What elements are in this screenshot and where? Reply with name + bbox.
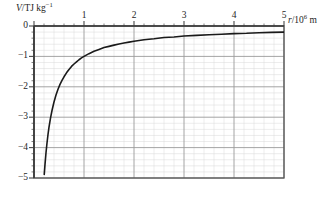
- y-tick-label: −4: [10, 143, 28, 153]
- y-tick-label: −1: [10, 51, 28, 61]
- y-tick-label: −3: [10, 112, 28, 122]
- y-tick-label: 0: [10, 21, 28, 31]
- x-axis-unit-text: m: [310, 15, 317, 25]
- y-tick-label: −2: [10, 82, 28, 92]
- y-tick-label: −5: [10, 173, 28, 183]
- x-tick-label: 2: [126, 11, 142, 21]
- x-tick-label: 1: [76, 11, 92, 21]
- x-tick-label: 4: [226, 11, 242, 21]
- x-tick-label: 5: [276, 11, 292, 21]
- x-tick-label: 3: [176, 11, 192, 21]
- x-axis-label: r/106 m: [288, 16, 317, 26]
- gravitational-potential-chart: V/TJ kg−1 r/106 m 12345 0−1−2−3−4−5: [0, 0, 329, 200]
- y-axis-label: V/TJ kg−1: [16, 4, 53, 14]
- chart-background: [0, 0, 329, 200]
- y-axis-exponent: −1: [46, 1, 53, 8]
- y-axis-unit: /TJ kg: [22, 3, 46, 13]
- x-axis-scale: /10: [292, 15, 304, 25]
- chart-canvas: [0, 0, 329, 200]
